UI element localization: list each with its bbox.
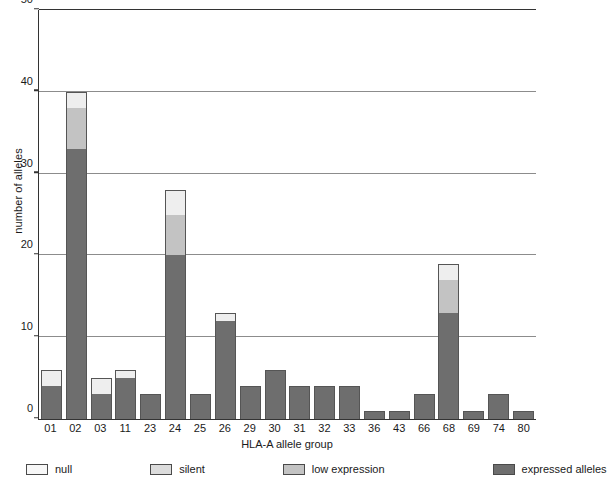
x-tick-label-26: 26 bbox=[212, 421, 237, 435]
bar-segment-43-expressed-alleles bbox=[389, 411, 410, 419]
bar-25[interactable] bbox=[190, 394, 211, 419]
x-tick-label-74: 74 bbox=[486, 421, 511, 435]
bar-slot-33 bbox=[337, 10, 362, 419]
bar-43[interactable] bbox=[389, 411, 410, 419]
legend-swatch-silent bbox=[150, 464, 172, 475]
x-tick-label-69: 69 bbox=[461, 421, 486, 435]
y-tick-label-40: 40 bbox=[21, 75, 33, 86]
plot-inner: 01020304050 bbox=[39, 10, 536, 419]
bar-segment-24-expressed-alleles bbox=[165, 255, 186, 419]
bar-01[interactable] bbox=[41, 370, 62, 419]
bar-66[interactable] bbox=[414, 394, 435, 419]
legend-label-expressed-alleles: expressed alleles bbox=[522, 463, 607, 475]
bar-segment-26-expressed-alleles bbox=[215, 321, 236, 419]
bar-32[interactable] bbox=[314, 386, 335, 419]
bar-68[interactable] bbox=[438, 264, 459, 419]
bar-69[interactable] bbox=[463, 411, 484, 419]
bar-segment-68-low-expression bbox=[438, 280, 459, 313]
legend-swatch-null bbox=[26, 464, 48, 475]
bar-80[interactable] bbox=[513, 411, 534, 419]
x-tick-label-68: 68 bbox=[437, 421, 462, 435]
bar-slot-30 bbox=[263, 10, 288, 419]
bar-segment-74-expressed-alleles bbox=[488, 394, 509, 419]
bar-group bbox=[39, 10, 536, 419]
bar-29[interactable] bbox=[240, 386, 261, 419]
y-tick-label-10: 10 bbox=[21, 321, 33, 332]
x-tick-label-43: 43 bbox=[387, 421, 412, 435]
legend-label-silent: silent bbox=[179, 463, 205, 475]
bar-slot-66 bbox=[412, 10, 437, 419]
x-tick-label-33: 33 bbox=[337, 421, 362, 435]
bar-24[interactable] bbox=[165, 190, 186, 419]
y-tick-label-30: 30 bbox=[21, 157, 33, 168]
bar-30[interactable] bbox=[265, 370, 286, 419]
bar-segment-33-expressed-alleles bbox=[339, 386, 360, 419]
bar-segment-24-null bbox=[165, 190, 186, 215]
legend-swatch-expressed-alleles bbox=[493, 464, 515, 475]
bar-11[interactable] bbox=[115, 370, 136, 419]
y-tick-label-0: 0 bbox=[27, 403, 33, 414]
bar-36[interactable] bbox=[364, 411, 385, 419]
bar-segment-02-null bbox=[66, 92, 87, 108]
x-tick-label-11: 11 bbox=[113, 421, 138, 435]
legend-item-expressed-alleles[interactable]: expressed alleles bbox=[493, 463, 607, 475]
bar-segment-68-null bbox=[438, 264, 459, 280]
bar-segment-23-expressed-alleles bbox=[140, 394, 161, 419]
legend-item-low-expression[interactable]: low expression bbox=[283, 463, 385, 475]
bar-slot-24 bbox=[163, 10, 188, 419]
bar-segment-32-expressed-alleles bbox=[314, 386, 335, 419]
x-tick-label-02: 02 bbox=[63, 421, 88, 435]
bar-slot-02 bbox=[64, 10, 89, 419]
x-tick-label-23: 23 bbox=[138, 421, 163, 435]
bar-segment-02-expressed-alleles bbox=[66, 149, 87, 419]
bar-segment-25-expressed-alleles bbox=[190, 394, 211, 419]
x-tick-label-30: 30 bbox=[262, 421, 287, 435]
chart-legend: nullsilentlow expressionexpressed allele… bbox=[26, 463, 526, 475]
bar-segment-11-null bbox=[115, 370, 136, 378]
bar-31[interactable] bbox=[289, 386, 310, 419]
bar-slot-01 bbox=[39, 10, 64, 419]
bar-02[interactable] bbox=[66, 92, 87, 419]
bar-slot-29 bbox=[238, 10, 263, 419]
bar-segment-68-expressed-alleles bbox=[438, 313, 459, 419]
bar-segment-31-expressed-alleles bbox=[289, 386, 310, 419]
bar-slot-69 bbox=[461, 10, 486, 419]
bar-slot-68 bbox=[437, 10, 462, 419]
bar-slot-74 bbox=[486, 10, 511, 419]
legend-item-null[interactable]: null bbox=[26, 463, 72, 475]
bar-slot-31 bbox=[287, 10, 312, 419]
bar-segment-02-low-expression bbox=[66, 108, 87, 149]
bar-segment-80-expressed-alleles bbox=[513, 411, 534, 419]
bar-segment-11-expressed-alleles bbox=[115, 378, 136, 419]
bar-segment-29-expressed-alleles bbox=[240, 386, 261, 419]
x-tick-label-36: 36 bbox=[362, 421, 387, 435]
bar-slot-11 bbox=[114, 10, 139, 419]
bar-segment-03-expressed-alleles bbox=[91, 394, 112, 419]
bar-26[interactable] bbox=[215, 313, 236, 419]
x-tick-label-25: 25 bbox=[187, 421, 212, 435]
bar-03[interactable] bbox=[91, 378, 112, 419]
x-axis-title: HLA-A allele group bbox=[38, 438, 536, 450]
bar-segment-30-expressed-alleles bbox=[265, 370, 286, 419]
bar-74[interactable] bbox=[488, 394, 509, 419]
bar-slot-43 bbox=[387, 10, 412, 419]
legend-swatch-low-expression bbox=[283, 464, 305, 475]
x-axis-tick-labels: 0102031123242526293031323336436668697480 bbox=[38, 421, 536, 435]
x-tick-label-01: 01 bbox=[38, 421, 63, 435]
x-tick-label-31: 31 bbox=[287, 421, 312, 435]
legend-label-low-expression: low expression bbox=[312, 463, 385, 475]
x-tick-label-32: 32 bbox=[312, 421, 337, 435]
bar-segment-69-expressed-alleles bbox=[463, 411, 484, 419]
bar-slot-26 bbox=[213, 10, 238, 419]
legend-label-null: null bbox=[55, 463, 72, 475]
bar-segment-01-null bbox=[41, 370, 62, 386]
legend-item-silent[interactable]: silent bbox=[150, 463, 205, 475]
bar-23[interactable] bbox=[140, 394, 161, 419]
bar-slot-32 bbox=[312, 10, 337, 419]
bar-33[interactable] bbox=[339, 386, 360, 419]
bar-slot-23 bbox=[138, 10, 163, 419]
plot-area: 01020304050 bbox=[38, 10, 536, 420]
bar-segment-36-expressed-alleles bbox=[364, 411, 385, 419]
x-tick-label-80: 80 bbox=[511, 421, 536, 435]
x-tick-label-66: 66 bbox=[412, 421, 437, 435]
